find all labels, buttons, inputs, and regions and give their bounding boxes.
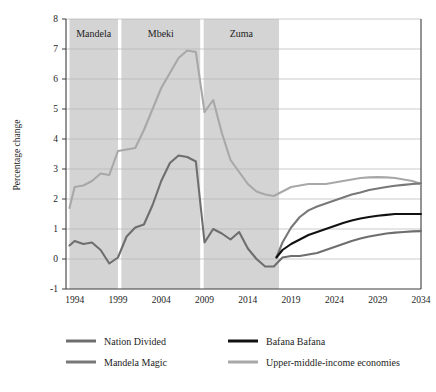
x-tick-label: 1994 xyxy=(65,295,84,305)
y-tick-label: 1 xyxy=(53,224,58,234)
x-tick-label: 2034 xyxy=(412,295,431,305)
y-tick-label: 6 xyxy=(53,74,58,84)
legend-label-mandela-magic: Mandela Magic xyxy=(104,357,168,368)
y-tick-label: 2 xyxy=(53,194,58,204)
legend-label-bafana-bafana: Bafana Bafana xyxy=(266,336,326,347)
y-tick-label: 5 xyxy=(53,104,58,114)
line-chart: 876543210-1 1994199920042009201420192024… xyxy=(0,0,436,392)
x-tick-label: 2029 xyxy=(368,295,387,305)
legend: Nation DividedBafana BafanaMandela Magic… xyxy=(66,336,400,368)
shaded-band-mandela xyxy=(69,19,117,289)
x-axis-tick-labels: 199419992004200920142019202420292034 xyxy=(65,295,431,305)
y-axis-tick-labels: 876543210-1 xyxy=(50,14,58,294)
y-axis-title: Percentage change xyxy=(12,120,22,191)
shaded-band-mbeki xyxy=(121,19,200,289)
x-tick-label: 2024 xyxy=(325,295,344,305)
y-tick-label: -1 xyxy=(50,284,58,294)
y-tick-label: 7 xyxy=(53,44,58,54)
x-tick-label: 2004 xyxy=(152,295,171,305)
chart-container: 876543210-1 1994199920042009201420192024… xyxy=(0,0,436,392)
y-tick-label: 0 xyxy=(53,254,58,264)
x-tick-label: 2014 xyxy=(238,295,257,305)
band-label-mandela: Mandela xyxy=(76,28,112,39)
legend-label-nation-divided: Nation Divided xyxy=(104,336,166,347)
x-tick-label: 2019 xyxy=(282,295,301,305)
band-label-mbeki: Mbeki xyxy=(148,28,174,39)
y-tick-label: 4 xyxy=(53,134,58,144)
y-tick-label: 8 xyxy=(53,14,58,24)
legend-label-upper-middle-income-economies: Upper-middle-income economies xyxy=(266,357,400,368)
y-tick-label: 3 xyxy=(53,164,58,174)
y-axis-ticks xyxy=(62,19,66,289)
shaded-band-zuma xyxy=(204,19,279,289)
x-tick-label: 2009 xyxy=(195,295,214,305)
band-label-zuma: Zuma xyxy=(230,28,254,39)
x-tick-label: 1999 xyxy=(108,295,127,305)
